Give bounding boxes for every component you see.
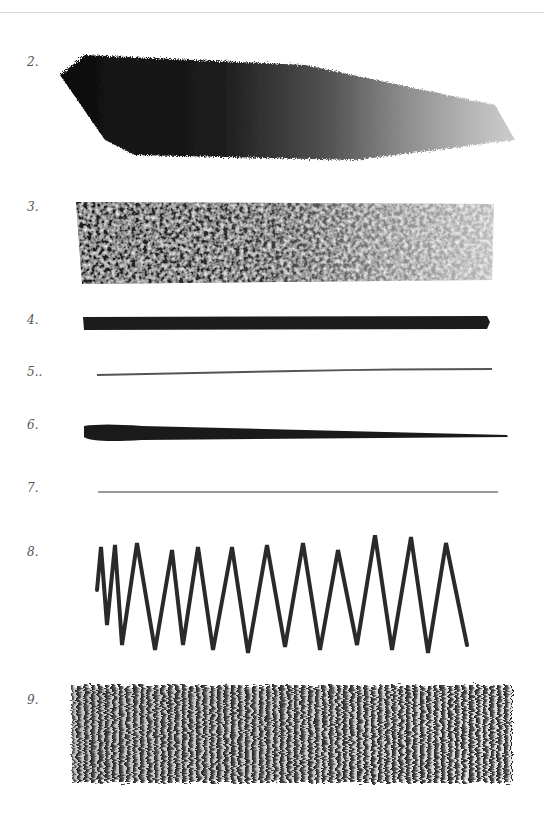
sample-9-label: 9. — [27, 693, 38, 707]
sample-5-stroke — [96, 366, 496, 378]
sample-4-label: 4. — [27, 313, 38, 327]
sample-9-stroke — [70, 680, 520, 790]
sample-5-label: 5.. — [27, 365, 42, 379]
sample-8-stroke — [95, 535, 480, 665]
sample-3-stroke — [76, 200, 496, 285]
header-rule — [0, 12, 544, 13]
sample-3-label: 3. — [27, 200, 38, 214]
sample-6-label: 6. — [27, 418, 38, 432]
sample-6-stroke — [82, 423, 512, 443]
sample-7-label: 7. — [27, 481, 38, 495]
sample-4-stroke — [82, 314, 492, 332]
sample-2-label: 2. — [27, 55, 38, 69]
sample-7-stroke — [98, 489, 500, 495]
sample-2-stroke — [55, 45, 520, 175]
sample-8-label: 8. — [27, 545, 38, 559]
